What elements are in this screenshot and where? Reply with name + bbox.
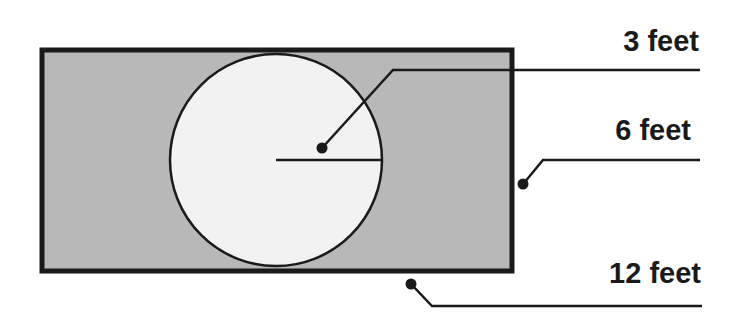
label-length-12-feet: 12 feet [609, 259, 701, 288]
leader-dot-width [518, 179, 529, 190]
label-width-6-feet: 6 feet [615, 116, 691, 145]
leader-dot-length [406, 279, 417, 290]
leader-dot-radius [317, 143, 328, 154]
label-radius-3-feet: 3 feet [623, 27, 699, 56]
leader-width [518, 160, 701, 190]
